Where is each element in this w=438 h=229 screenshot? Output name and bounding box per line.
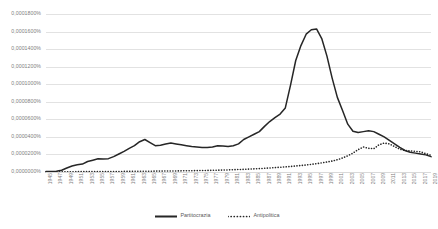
- x-axis-tick-label: 2009: [381, 173, 386, 184]
- y-axis-tick-label: 0,0001400%: [11, 47, 41, 52]
- x-axis-tick-label: 1957: [110, 173, 115, 184]
- x-axis-tick-label: 1991: [287, 173, 292, 184]
- legend-label: Partitocrazia: [180, 213, 210, 218]
- y-axis-tick-label: 0,0000000%: [11, 169, 41, 174]
- legend-item[interactable]: Partitocrazia: [155, 213, 210, 220]
- legend-item[interactable]: Antipolitica: [228, 213, 279, 220]
- plot-area: [46, 14, 431, 172]
- x-axis-tick-label: 1971: [183, 173, 188, 184]
- series-line-antipolitica: [46, 143, 431, 172]
- x-axis-tick-label: 1987: [267, 173, 272, 184]
- x-axis-tick-label: 1985: [256, 173, 261, 184]
- x-axis-tick-label: 1981: [235, 173, 240, 184]
- x-axis-tick-label: 1977: [214, 173, 219, 184]
- y-axis-tick-label: 0,0000600%: [11, 117, 41, 122]
- x-axis-tick-label: 2003: [350, 173, 355, 184]
- x-axis-tick-label: 2007: [371, 173, 376, 184]
- x-axis-tick-label: 1965: [152, 173, 157, 184]
- series-layer: [46, 14, 431, 172]
- chart-title: [46, 0, 431, 4]
- y-axis-tick-label: 0,0000400%: [11, 134, 41, 139]
- x-axis-tick-label: 1969: [173, 173, 178, 184]
- y-axis-tick-label: 0,0001000%: [11, 82, 41, 87]
- chart-legend: PartitocraziaAntipolitica: [0, 208, 435, 224]
- y-axis-tick-label: 0,0001200%: [11, 64, 41, 69]
- x-axis-tick-label: 2001: [339, 173, 344, 184]
- legend-swatch-dotted: [228, 213, 250, 220]
- x-axis-tick-label: 2011: [391, 173, 396, 184]
- y-axis-tick-label: 0,0001800%: [11, 11, 41, 16]
- x-axis-tick-label: 2005: [360, 173, 365, 184]
- x-axis-tick-label: 1959: [121, 173, 126, 184]
- x-axis-tick-label: 1973: [194, 173, 199, 184]
- x-axis-tick-label: 2013: [402, 173, 407, 184]
- x-axis-tick-label: 1999: [329, 173, 334, 184]
- x-axis-tick-label: 1993: [298, 173, 303, 184]
- x-axis-tick-label: 1983: [246, 173, 251, 184]
- x-axis-tick-label: 1989: [277, 173, 282, 184]
- legend-swatch-solid: [155, 213, 177, 220]
- x-axis-labels: 1945194719491951195319551957195919611963…: [46, 173, 431, 205]
- x-axis-tick-label: 1951: [79, 173, 84, 184]
- legend-label: Antipolitica: [253, 213, 279, 218]
- x-axis-tick-label: 1961: [131, 173, 136, 184]
- x-axis-tick-label: 1947: [58, 173, 63, 184]
- x-axis-tick-label: 1997: [319, 173, 324, 184]
- y-axis-labels: 0,0001800%0,0001600%0,0001400%0,0001200%…: [0, 14, 44, 172]
- x-axis-tick-label: 1949: [69, 173, 74, 184]
- x-axis-tick-label: 1963: [142, 173, 147, 184]
- x-axis-tick-label: 2019: [433, 173, 438, 184]
- x-axis-tick-label: 1975: [204, 173, 209, 184]
- y-axis-tick-label: 0,0000800%: [11, 99, 41, 104]
- x-axis-tick-label: 2017: [423, 173, 428, 184]
- x-axis-tick-label: 1979: [225, 173, 230, 184]
- x-axis-tick-label: 1995: [308, 173, 313, 184]
- x-axis-tick-label: 1955: [100, 173, 105, 184]
- x-axis-tick-label: 1945: [48, 173, 53, 184]
- series-line-partitocrazia: [46, 29, 431, 172]
- y-axis-tick-label: 0,0000200%: [11, 152, 41, 157]
- y-axis-tick-label: 0,0001600%: [11, 29, 41, 34]
- x-axis-tick-label: 1953: [90, 173, 95, 184]
- x-axis-tick-label: 1967: [162, 173, 167, 184]
- x-axis-tick-label: 2015: [412, 173, 417, 184]
